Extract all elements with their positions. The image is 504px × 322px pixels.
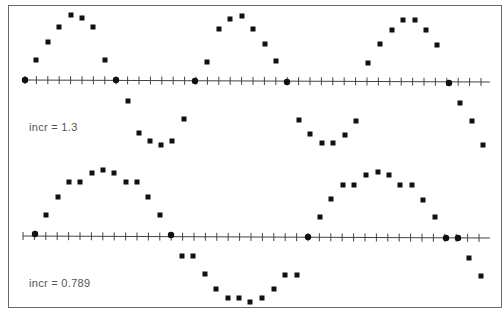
data-point-marker xyxy=(398,183,403,188)
data-point-marker xyxy=(44,213,49,218)
data-point-marker xyxy=(226,296,231,301)
data-point-marker xyxy=(308,132,313,137)
data-point-marker xyxy=(124,180,129,185)
data-point-marker xyxy=(112,171,117,176)
zero-crossing-marker xyxy=(446,80,452,86)
data-point-marker xyxy=(251,27,256,32)
zero-crossing-marker xyxy=(113,77,119,83)
data-point-marker xyxy=(390,28,395,33)
data-point-marker xyxy=(410,183,415,188)
data-point-marker xyxy=(467,256,472,261)
data-point-marker xyxy=(57,25,62,30)
data-point-marker xyxy=(217,27,222,32)
scatter-plots xyxy=(0,0,504,322)
data-point-marker xyxy=(481,143,486,148)
data-point-marker xyxy=(320,141,325,146)
data-point-marker xyxy=(433,215,438,220)
zero-crossing-marker xyxy=(443,235,449,241)
zero-crossing-marker xyxy=(32,231,38,237)
data-point-marker xyxy=(69,13,74,18)
zero-crossing-marker xyxy=(192,78,198,84)
top-plot xyxy=(22,13,490,148)
zero-crossing-marker xyxy=(22,77,28,83)
data-point-marker xyxy=(458,101,463,106)
data-point-marker xyxy=(80,16,85,21)
data-point-marker xyxy=(401,18,406,23)
data-point-marker xyxy=(341,183,346,188)
data-point-marker xyxy=(203,272,208,277)
data-point-marker xyxy=(237,296,242,301)
data-point-marker xyxy=(352,183,357,188)
data-point-marker xyxy=(159,143,164,148)
data-point-marker xyxy=(148,139,153,144)
data-point-marker xyxy=(91,25,96,30)
data-point-marker xyxy=(101,168,106,173)
data-point-marker xyxy=(295,273,300,278)
data-point-marker xyxy=(424,28,429,33)
data-point-marker xyxy=(137,131,142,136)
data-point-marker xyxy=(56,195,61,200)
bottom-plot-label: incr = 0.789 xyxy=(29,277,90,289)
data-point-marker xyxy=(126,99,131,104)
x-axis-line xyxy=(25,80,490,82)
data-point-marker xyxy=(67,180,72,185)
zero-crossing-marker xyxy=(455,235,461,241)
data-point-marker xyxy=(182,117,187,122)
data-point-marker xyxy=(343,133,348,138)
data-point-marker xyxy=(283,273,288,278)
figure: incr = 1.3 incr = 0.789 xyxy=(0,0,504,322)
data-point-marker xyxy=(46,40,51,45)
data-point-marker xyxy=(387,173,392,178)
data-point-marker xyxy=(191,254,196,259)
data-point-marker xyxy=(272,287,277,292)
data-point-marker xyxy=(274,59,279,64)
data-point-marker xyxy=(421,198,426,203)
data-point-marker xyxy=(378,42,383,47)
data-point-marker xyxy=(297,118,302,123)
data-point-marker xyxy=(240,14,245,19)
x-axis-line xyxy=(23,236,490,238)
data-point-marker xyxy=(135,180,140,185)
data-point-marker xyxy=(260,296,265,301)
data-point-marker xyxy=(376,170,381,175)
data-point-marker xyxy=(470,119,475,124)
data-point-marker xyxy=(318,215,323,220)
data-point-marker xyxy=(354,119,359,124)
zero-crossing-marker xyxy=(168,232,174,238)
data-point-marker xyxy=(170,139,175,144)
data-point-marker xyxy=(413,18,418,23)
data-point-marker xyxy=(263,42,268,47)
data-point-marker xyxy=(331,141,336,146)
data-point-marker xyxy=(78,180,83,185)
data-point-marker xyxy=(90,171,95,176)
zero-crossing-marker xyxy=(305,234,311,240)
data-point-marker xyxy=(34,58,39,63)
top-plot-label: incr = 1.3 xyxy=(29,121,78,133)
data-point-marker xyxy=(205,60,210,65)
data-point-marker xyxy=(180,254,185,259)
data-point-marker xyxy=(158,213,163,218)
data-point-marker xyxy=(329,197,334,202)
data-point-marker xyxy=(435,43,440,48)
data-point-marker xyxy=(228,17,233,22)
data-point-marker xyxy=(103,58,108,63)
data-point-marker xyxy=(366,61,371,66)
data-point-marker xyxy=(248,300,253,305)
data-point-marker xyxy=(214,287,219,292)
data-point-marker xyxy=(479,274,484,279)
data-point-marker xyxy=(364,173,369,178)
bottom-plot xyxy=(23,168,490,305)
zero-crossing-marker xyxy=(284,79,290,85)
data-point-marker xyxy=(146,195,151,200)
